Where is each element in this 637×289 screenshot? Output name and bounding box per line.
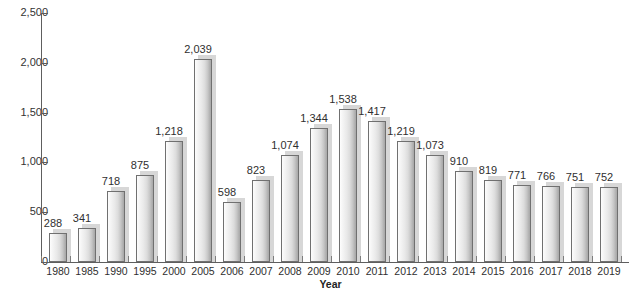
x-axis-separator	[476, 256, 477, 262]
bar[interactable]	[136, 175, 154, 262]
bar-group: 823	[247, 13, 276, 262]
bar[interactable]	[542, 186, 560, 262]
x-axis-separator	[186, 256, 187, 262]
y-axis-tick	[41, 262, 48, 263]
bar-group: 2,039	[189, 13, 218, 262]
bar-value-label: 2,039	[180, 44, 216, 55]
y-axis-tick	[41, 63, 48, 64]
bar[interactable]	[513, 185, 531, 262]
bar[interactable]	[165, 141, 183, 262]
bar-value-label: 1,074	[267, 140, 303, 151]
x-axis-separator	[505, 256, 506, 262]
bar-group: 718	[102, 13, 131, 262]
x-axis-separator	[215, 256, 216, 262]
bar-value-label: 1,538	[325, 94, 361, 105]
bar-value-label: 341	[64, 213, 100, 224]
x-axis-separator	[389, 256, 390, 262]
bar-group: 1,074	[276, 13, 305, 262]
x-axis-separator	[244, 256, 245, 262]
bar-value-label: 823	[238, 165, 274, 176]
x-axis-separator	[360, 256, 361, 262]
bar-group: 752	[595, 13, 624, 262]
bar[interactable]	[223, 202, 241, 262]
bar[interactable]	[339, 109, 357, 262]
bar-group: 875	[131, 13, 160, 262]
x-axis-separator	[418, 256, 419, 262]
bar[interactable]	[368, 121, 386, 262]
bar[interactable]	[484, 180, 502, 262]
x-axis-separator	[447, 256, 448, 262]
x-axis-separator	[157, 256, 158, 262]
bar-group: 766	[537, 13, 566, 262]
bar[interactable]	[397, 141, 415, 262]
bar-group: 1,344	[305, 13, 334, 262]
x-axis-separator	[70, 256, 71, 262]
bar[interactable]	[600, 187, 618, 262]
x-axis-separator	[592, 256, 593, 262]
x-axis-title: Year	[301, 278, 361, 289]
x-axis-separator	[41, 256, 42, 262]
y-axis-tick	[41, 13, 48, 14]
bar-value-label: 1,073	[412, 140, 448, 151]
bar-value-label: 1,417	[354, 106, 390, 117]
x-axis-separator	[331, 256, 332, 262]
bar[interactable]	[78, 228, 96, 262]
x-axis-separator	[563, 256, 564, 262]
bar[interactable]	[310, 128, 328, 262]
x-axis-separator	[273, 256, 274, 262]
x-axis-line	[41, 262, 629, 263]
bar-group: 288	[44, 13, 73, 262]
bar-group: 751	[566, 13, 595, 262]
bar-value-label: 598	[209, 187, 245, 198]
bar-chart: 05001,0001,5002,0002,500 2883417188751,2…	[0, 0, 637, 289]
y-axis-tick	[41, 162, 48, 163]
bar-value-label: 1,219	[383, 126, 419, 137]
bar-group: 341	[73, 13, 102, 262]
bar-group: 819	[479, 13, 508, 262]
bar-value-label: 752	[586, 172, 622, 183]
bar-value-label: 875	[122, 160, 158, 171]
x-axis-separator	[99, 256, 100, 262]
bar-group: 598	[218, 13, 247, 262]
bar-value-label: 1,218	[151, 126, 187, 137]
bar[interactable]	[455, 171, 473, 262]
bar-value-label: 1,344	[296, 113, 332, 124]
x-axis-separator	[534, 256, 535, 262]
bar-group: 1,219	[392, 13, 421, 262]
y-axis-tick	[41, 113, 48, 114]
bar[interactable]	[281, 155, 299, 262]
bar-group: 910	[450, 13, 479, 262]
plot-area: 2883417188751,2182,0395988231,0741,3441,…	[41, 13, 629, 262]
x-axis-separator	[128, 256, 129, 262]
bar[interactable]	[107, 191, 125, 263]
bar-group: 771	[508, 13, 537, 262]
bar[interactable]	[49, 233, 67, 262]
bar-group: 1,538	[334, 13, 363, 262]
y-axis-tick	[41, 212, 48, 213]
bar-group: 1,417	[363, 13, 392, 262]
bar[interactable]	[194, 59, 212, 262]
bar-group: 1,073	[421, 13, 450, 262]
x-axis-tick-label: 2019	[591, 266, 627, 277]
x-axis-separator	[302, 256, 303, 262]
bar-value-label: 718	[93, 176, 129, 187]
bar[interactable]	[252, 180, 270, 262]
bar[interactable]	[571, 187, 589, 262]
bar[interactable]	[426, 155, 444, 262]
x-axis-separator	[621, 256, 622, 262]
